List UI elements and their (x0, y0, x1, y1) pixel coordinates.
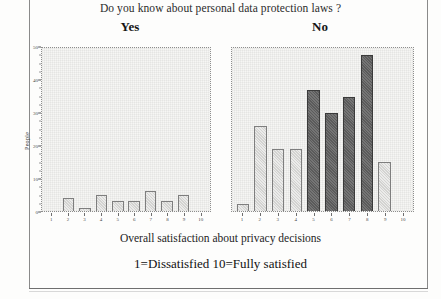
y-minor-tick-mark (39, 88, 41, 89)
y-minor-tick-mark (39, 170, 41, 171)
bar-slot (393, 48, 411, 211)
figure-page: Do you know about personal data protecti… (0, 0, 441, 299)
x-tick-label: 5 (305, 213, 323, 222)
bar-slot (287, 48, 305, 211)
x-tick-label: 10 (394, 213, 412, 222)
y-minor-tick-mark (39, 47, 41, 48)
panel-title-no: No (250, 19, 390, 35)
plot-area-no (231, 47, 414, 212)
bar-slot (77, 48, 93, 211)
bar-slot (175, 48, 191, 211)
y-minor-tick-mark (39, 71, 41, 72)
x-tick-label: 3 (76, 213, 93, 222)
y-minor-tick-mark (39, 137, 41, 138)
bar-no-5 (307, 90, 319, 211)
x-tick-label: 10 (192, 213, 209, 222)
y-minor-tick-mark (39, 203, 41, 204)
y-axis-label: People (24, 132, 30, 150)
bar-slot (305, 48, 323, 211)
page-frame-bottom-rule-secondary (29, 291, 428, 292)
bar-no-7 (343, 97, 355, 211)
bar-slot (192, 48, 208, 211)
bar-slot (252, 48, 270, 211)
panel-title-yes: Yes (60, 19, 200, 35)
y-minor-tick-mark (39, 96, 41, 97)
y-minor-tick-mark (39, 179, 41, 180)
bar-slot (376, 48, 394, 211)
bar-no-9 (378, 162, 390, 211)
y-minor-tick-mark (39, 121, 41, 122)
x-tick-label: 6 (323, 213, 341, 222)
bar-slot (358, 48, 376, 211)
bar-slot (269, 48, 287, 211)
bar-slot (234, 48, 252, 211)
bar-slot (126, 48, 142, 211)
y-minor-tick-mark (39, 80, 41, 81)
x-tick-label: 2 (60, 213, 77, 222)
x-tick-label: 4 (93, 213, 110, 222)
chart-no: 12345678910 (231, 47, 414, 212)
y-minor-tick-mark (39, 154, 41, 155)
chart-yes: 01020304050 12345678910 (41, 47, 211, 212)
y-minor-tick-mark (39, 63, 41, 64)
x-tick-label: 1 (233, 213, 251, 222)
bar-yes-7 (145, 191, 156, 211)
x-tick-label: 1 (43, 213, 60, 222)
scale-note: 1=Dissatisfied 10=Fully satisfied (0, 256, 441, 272)
bar-yes-5 (112, 201, 123, 211)
bar-slot (60, 48, 76, 211)
bar-yes-3 (79, 208, 90, 211)
bar-slot (110, 48, 126, 211)
bar-no-3 (272, 149, 284, 211)
bar-slot (323, 48, 341, 211)
bar-no-6 (325, 113, 337, 211)
y-minor-tick-mark (39, 113, 41, 114)
x-tick-label: 2 (251, 213, 269, 222)
x-tick-label: 5 (109, 213, 126, 222)
bar-no-1 (237, 204, 249, 211)
x-tick-label: 8 (358, 213, 376, 222)
bar-slot (93, 48, 109, 211)
bar-yes-2 (63, 198, 74, 211)
x-axis-caption: Overall satisfaction about privacy decis… (0, 232, 441, 244)
x-tick-label: 6 (126, 213, 143, 222)
bar-slot (340, 48, 358, 211)
x-axis-yes: 12345678910 (41, 213, 211, 222)
bar-series-yes (42, 48, 210, 211)
bar-slot (159, 48, 175, 211)
page-frame-right-rule (427, 0, 428, 289)
bar-slot (44, 48, 60, 211)
bar-yes-6 (128, 201, 139, 211)
y-minor-tick-mark (39, 129, 41, 130)
y-minor-tick-mark (39, 195, 41, 196)
plot-area-yes (41, 47, 211, 212)
bar-slot (142, 48, 158, 211)
bar-yes-9 (178, 195, 189, 211)
x-axis-no: 12345678910 (231, 213, 414, 222)
bar-yes-8 (161, 201, 172, 211)
x-tick-label: 9 (176, 213, 193, 222)
x-tick-label: 3 (269, 213, 287, 222)
y-minor-tick-mark (39, 104, 41, 105)
y-minor-tick-mark (39, 187, 41, 188)
page-frame-bottom-rule (29, 288, 428, 289)
x-tick-label: 9 (376, 213, 394, 222)
bar-no-2 (254, 126, 266, 211)
x-tick-label: 7 (340, 213, 358, 222)
y-minor-tick-mark (39, 146, 41, 147)
x-tick-label: 8 (159, 213, 176, 222)
bar-no-8 (361, 55, 373, 211)
bar-series-no (232, 48, 413, 211)
x-tick-label: 4 (287, 213, 305, 222)
bar-no-4 (290, 149, 302, 211)
y-minor-tick-mark (39, 55, 41, 56)
x-tick-label: 7 (143, 213, 160, 222)
figure-title: Do you know about personal data protecti… (0, 2, 441, 14)
bar-yes-4 (96, 195, 107, 211)
y-minor-tick-mark (39, 162, 41, 163)
